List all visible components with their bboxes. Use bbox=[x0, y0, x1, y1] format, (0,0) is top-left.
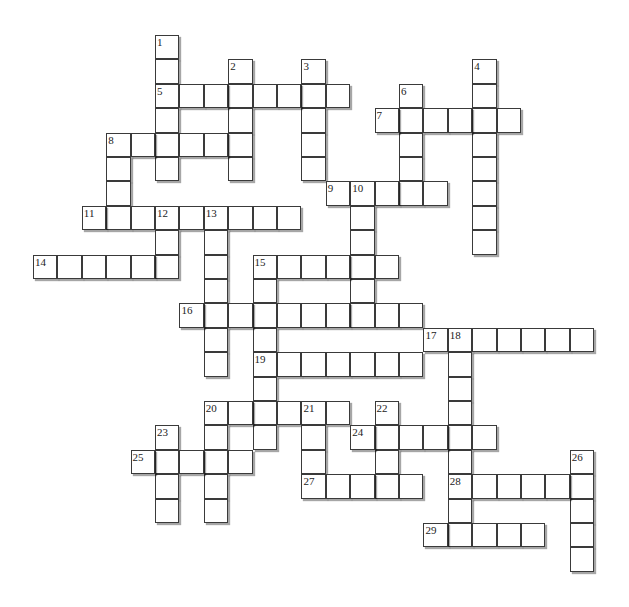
crossword-cell[interactable] bbox=[179, 206, 203, 230]
crossword-cell[interactable] bbox=[497, 474, 521, 498]
crossword-cell[interactable] bbox=[131, 206, 155, 230]
crossword-cell[interactable] bbox=[350, 279, 374, 303]
crossword-cell[interactable] bbox=[228, 401, 252, 425]
crossword-cell[interactable]: 22 bbox=[375, 401, 399, 425]
crossword-cell[interactable]: 12 bbox=[155, 206, 179, 230]
crossword-cell[interactable] bbox=[570, 328, 594, 352]
crossword-cell[interactable] bbox=[472, 206, 496, 230]
crossword-cell[interactable] bbox=[375, 474, 399, 498]
crossword-cell[interactable] bbox=[497, 108, 521, 132]
crossword-cell[interactable] bbox=[106, 206, 130, 230]
crossword-cell[interactable] bbox=[277, 352, 301, 376]
crossword-cell[interactable] bbox=[423, 181, 447, 205]
crossword-cell[interactable] bbox=[423, 108, 447, 132]
crossword-cell[interactable] bbox=[155, 474, 179, 498]
crossword-cell[interactable]: 26 bbox=[570, 450, 594, 474]
crossword-cell[interactable] bbox=[326, 352, 350, 376]
crossword-cell[interactable]: 8 bbox=[106, 133, 130, 157]
crossword-cell[interactable]: 9 bbox=[326, 181, 350, 205]
crossword-cell[interactable] bbox=[204, 474, 228, 498]
crossword-cell[interactable] bbox=[228, 303, 252, 327]
crossword-cell[interactable] bbox=[448, 425, 472, 449]
crossword-cell[interactable] bbox=[277, 206, 301, 230]
crossword-cell[interactable] bbox=[253, 425, 277, 449]
crossword-cell[interactable] bbox=[375, 181, 399, 205]
crossword-cell[interactable] bbox=[228, 450, 252, 474]
crossword-cell[interactable]: 20 bbox=[204, 401, 228, 425]
crossword-cell[interactable] bbox=[277, 84, 301, 108]
crossword-cell[interactable] bbox=[253, 279, 277, 303]
crossword-cell[interactable]: 29 bbox=[423, 523, 447, 547]
crossword-cell[interactable] bbox=[155, 108, 179, 132]
crossword-cell[interactable] bbox=[570, 523, 594, 547]
crossword-cell[interactable]: 7 bbox=[375, 108, 399, 132]
crossword-cell[interactable] bbox=[155, 230, 179, 254]
crossword-cell[interactable]: 4 bbox=[472, 59, 496, 83]
crossword-cell[interactable] bbox=[448, 499, 472, 523]
crossword-cell[interactable] bbox=[350, 230, 374, 254]
crossword-cell[interactable]: 13 bbox=[204, 206, 228, 230]
crossword-cell[interactable] bbox=[277, 303, 301, 327]
crossword-cell[interactable] bbox=[350, 303, 374, 327]
crossword-cell[interactable] bbox=[399, 425, 423, 449]
crossword-cell[interactable] bbox=[204, 230, 228, 254]
crossword-cell[interactable]: 11 bbox=[82, 206, 106, 230]
crossword-cell[interactable]: 15 bbox=[253, 255, 277, 279]
crossword-cell[interactable] bbox=[253, 84, 277, 108]
crossword-cell[interactable] bbox=[253, 377, 277, 401]
crossword-cell[interactable] bbox=[301, 303, 325, 327]
crossword-cell[interactable]: 17 bbox=[423, 328, 447, 352]
crossword-cell[interactable] bbox=[204, 279, 228, 303]
crossword-cell[interactable] bbox=[472, 84, 496, 108]
crossword-cell[interactable] bbox=[155, 499, 179, 523]
crossword-cell[interactable] bbox=[497, 523, 521, 547]
crossword-cell[interactable] bbox=[57, 255, 81, 279]
crossword-cell[interactable] bbox=[399, 352, 423, 376]
crossword-cell[interactable] bbox=[570, 499, 594, 523]
crossword-cell[interactable] bbox=[472, 425, 496, 449]
crossword-cell[interactable] bbox=[204, 352, 228, 376]
crossword-cell[interactable] bbox=[448, 108, 472, 132]
crossword-cell[interactable] bbox=[277, 255, 301, 279]
crossword-cell[interactable]: 6 bbox=[399, 84, 423, 108]
crossword-cell[interactable] bbox=[399, 474, 423, 498]
crossword-cell[interactable]: 24 bbox=[350, 425, 374, 449]
crossword-cell[interactable]: 3 bbox=[301, 59, 325, 83]
crossword-cell[interactable] bbox=[253, 401, 277, 425]
crossword-cell[interactable] bbox=[179, 84, 203, 108]
crossword-cell[interactable] bbox=[253, 206, 277, 230]
crossword-cell[interactable] bbox=[301, 255, 325, 279]
crossword-cell[interactable] bbox=[155, 157, 179, 181]
crossword-cell[interactable] bbox=[448, 352, 472, 376]
crossword-cell[interactable] bbox=[570, 547, 594, 571]
crossword-cell[interactable] bbox=[472, 181, 496, 205]
crossword-cell[interactable] bbox=[326, 474, 350, 498]
crossword-cell[interactable] bbox=[228, 108, 252, 132]
crossword-cell[interactable] bbox=[204, 84, 228, 108]
crossword-cell[interactable] bbox=[448, 450, 472, 474]
crossword-cell[interactable] bbox=[399, 157, 423, 181]
crossword-cell[interactable] bbox=[521, 474, 545, 498]
crossword-cell[interactable] bbox=[375, 255, 399, 279]
crossword-cell[interactable] bbox=[204, 303, 228, 327]
crossword-cell[interactable] bbox=[375, 352, 399, 376]
crossword-cell[interactable] bbox=[521, 523, 545, 547]
crossword-cell[interactable]: 2 bbox=[228, 59, 252, 83]
crossword-cell[interactable] bbox=[472, 157, 496, 181]
crossword-cell[interactable] bbox=[301, 425, 325, 449]
crossword-cell[interactable] bbox=[204, 425, 228, 449]
crossword-cell[interactable] bbox=[155, 133, 179, 157]
crossword-cell[interactable] bbox=[204, 328, 228, 352]
crossword-cell[interactable] bbox=[375, 425, 399, 449]
crossword-cell[interactable] bbox=[204, 450, 228, 474]
crossword-cell[interactable]: 21 bbox=[301, 401, 325, 425]
crossword-cell[interactable] bbox=[253, 328, 277, 352]
crossword-cell[interactable] bbox=[179, 450, 203, 474]
crossword-cell[interactable] bbox=[326, 255, 350, 279]
crossword-cell[interactable] bbox=[545, 328, 569, 352]
crossword-cell[interactable] bbox=[350, 206, 374, 230]
crossword-cell[interactable] bbox=[326, 303, 350, 327]
crossword-cell[interactable] bbox=[301, 352, 325, 376]
crossword-cell[interactable]: 28 bbox=[448, 474, 472, 498]
crossword-cell[interactable] bbox=[301, 157, 325, 181]
